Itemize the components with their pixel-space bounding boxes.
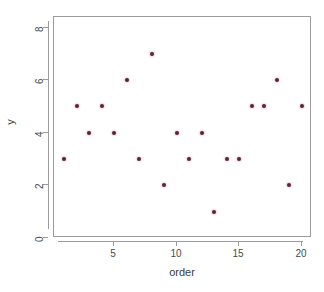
x-tick-mark bbox=[113, 241, 114, 246]
x-axis-title: order bbox=[53, 266, 311, 278]
data-point bbox=[150, 52, 154, 56]
x-tick-mark bbox=[238, 241, 239, 246]
x-tick-label: 5 bbox=[101, 248, 125, 259]
x-axis-line bbox=[58, 241, 303, 242]
data-point bbox=[112, 131, 116, 135]
data-point bbox=[62, 157, 66, 161]
data-point bbox=[225, 157, 229, 161]
x-tick-mark bbox=[176, 241, 177, 246]
data-point bbox=[275, 78, 279, 82]
x-tick-label: 10 bbox=[164, 248, 188, 259]
data-point bbox=[300, 104, 304, 108]
data-point bbox=[87, 131, 91, 135]
scatter-plot-figure: 02468 y 5101520 order bbox=[0, 0, 324, 292]
y-tick-label: 6 bbox=[34, 79, 45, 99]
y-axis-title: y bbox=[4, 119, 16, 125]
data-point bbox=[287, 183, 291, 187]
plot-area bbox=[53, 16, 311, 237]
data-point bbox=[200, 131, 204, 135]
data-point bbox=[237, 157, 241, 161]
data-point bbox=[137, 157, 141, 161]
y-tick-label: 2 bbox=[34, 184, 45, 204]
data-point bbox=[212, 210, 216, 214]
y-tick-label: 0 bbox=[34, 237, 45, 257]
data-point-layer bbox=[54, 17, 310, 236]
data-point bbox=[75, 104, 79, 108]
y-tick-label: 8 bbox=[34, 27, 45, 47]
data-point bbox=[262, 104, 266, 108]
y-tick-label: 4 bbox=[34, 132, 45, 152]
data-point bbox=[187, 157, 191, 161]
data-point bbox=[125, 78, 129, 82]
x-tick-label: 20 bbox=[289, 248, 313, 259]
y-axis-line bbox=[48, 21, 49, 229]
x-tick-label: 15 bbox=[226, 248, 250, 259]
x-tick-mark bbox=[301, 241, 302, 246]
data-point bbox=[250, 104, 254, 108]
data-point bbox=[100, 104, 104, 108]
data-point bbox=[175, 131, 179, 135]
data-point bbox=[162, 183, 166, 187]
